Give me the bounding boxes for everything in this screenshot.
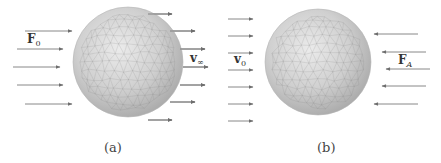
caption-a: (a) (104, 140, 122, 155)
spheres (73, 7, 371, 120)
force-label-f0: F0 (27, 32, 41, 48)
velocity-label-v0: v0 (234, 52, 246, 68)
velocity-label-vinf: v∞ (190, 51, 204, 67)
caption-b: (b) (317, 140, 335, 155)
sphere-b (265, 9, 371, 115)
force-label-fa: FA (398, 53, 412, 69)
diagram-canvas (0, 0, 441, 163)
sphere-a (73, 7, 183, 117)
